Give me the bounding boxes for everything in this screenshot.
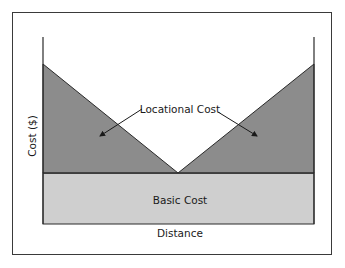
locational-cost-right-region	[178, 64, 314, 173]
locational-cost-label: Locational Cost	[140, 103, 220, 115]
basic-cost-label: Basic Cost	[153, 194, 207, 206]
locational-cost-left-region	[43, 64, 178, 173]
x-axis-label: Distance	[157, 227, 203, 239]
cost-distance-diagram: Locational Cost Basic Cost Distance Cost…	[0, 0, 345, 268]
y-axis-label: Cost ($)	[26, 115, 38, 157]
